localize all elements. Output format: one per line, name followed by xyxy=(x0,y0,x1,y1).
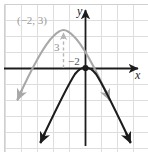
horizontal-shift-label: −2 xyxy=(68,56,80,67)
vertical-shift-label: 3 xyxy=(54,42,60,53)
vertex-coordinate-label: (−2, 3) xyxy=(17,15,47,26)
y-axis-label: y xyxy=(77,5,82,17)
origin-vertex-dot xyxy=(82,65,88,71)
parabola-transformation-figure: (−2, 3) 3 −2 y x xyxy=(0,0,148,152)
x-axis-label: x xyxy=(135,69,140,81)
